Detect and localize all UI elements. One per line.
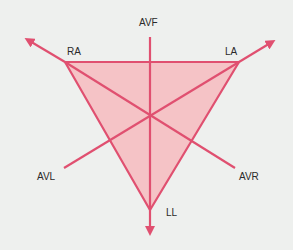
diagram-canvas xyxy=(0,0,293,250)
label-avl: AVL xyxy=(37,172,55,182)
ra-arrow xyxy=(28,40,65,62)
la-arrow xyxy=(239,42,272,62)
label-ra: RA xyxy=(67,47,81,57)
label-ll: LL xyxy=(166,208,177,218)
einthoven-triangle xyxy=(65,62,239,210)
label-avf: AVF xyxy=(139,18,158,28)
label-avr: AVR xyxy=(239,172,259,182)
label-la: LA xyxy=(225,47,237,57)
einthoven-triangle-diagram: AVF RA LA AVL AVR LL xyxy=(0,0,293,250)
